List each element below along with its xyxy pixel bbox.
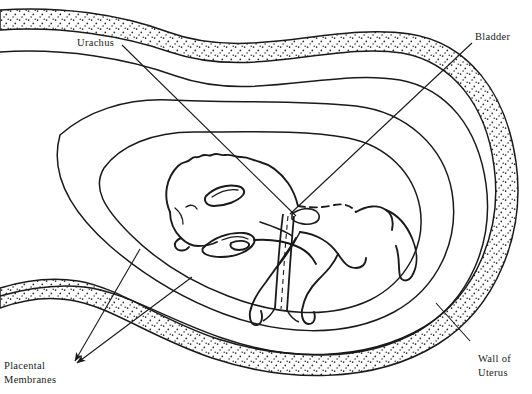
label-urachus: Urachus bbox=[77, 37, 114, 48]
label-wall-of-uterus-line1: Wall of bbox=[478, 353, 511, 364]
label-placental-membranes-line2: Membranes bbox=[4, 374, 56, 385]
label-bladder: Bladder bbox=[475, 31, 511, 42]
label-wall-of-uterus-line2: Uterus bbox=[478, 367, 508, 378]
fetus-in-utero-diagram: Urachus Bladder Placental Membranes Wall… bbox=[0, 0, 532, 394]
label-placental-membranes-line1: Placental bbox=[4, 360, 45, 371]
